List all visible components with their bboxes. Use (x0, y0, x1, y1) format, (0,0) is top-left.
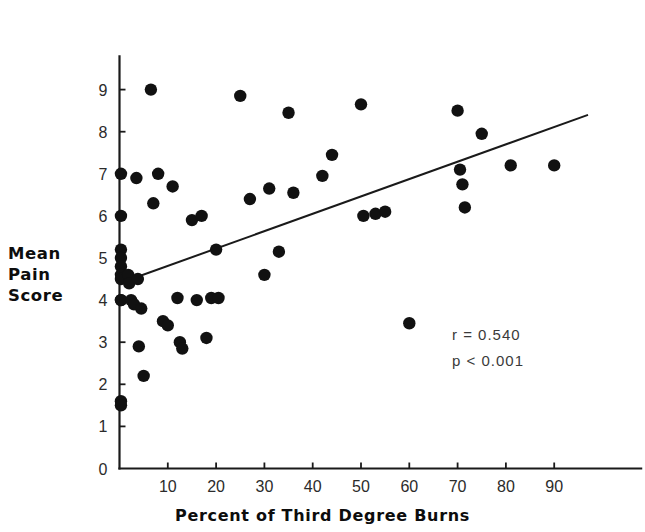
y-tick-label: 7 (99, 166, 108, 183)
y-axis-title-line-2: Pain (8, 264, 108, 285)
axis-group (120, 56, 642, 468)
data-point (212, 292, 224, 304)
x-tick-label: 80 (497, 478, 515, 495)
data-point (162, 319, 174, 331)
data-point (137, 370, 149, 382)
data-point (403, 317, 415, 329)
data-point (316, 170, 328, 182)
data-point (176, 342, 188, 354)
data-point (145, 83, 157, 95)
x-tick-label: 50 (352, 478, 370, 495)
data-point (476, 128, 488, 140)
correlation-annotation: r = 0.540 (452, 326, 521, 343)
data-point (459, 201, 471, 213)
tick-labels-group: 0123456789102030405060708090 (99, 82, 564, 495)
data-point (258, 269, 270, 281)
data-point (195, 210, 207, 222)
regression-line-group (120, 115, 589, 283)
data-point (115, 210, 127, 222)
x-tick-label: 60 (400, 478, 418, 495)
data-point (379, 205, 391, 217)
data-point (147, 197, 159, 209)
data-point (234, 90, 246, 102)
y-axis-title: Mean Pain Score (8, 243, 108, 306)
y-tick-label: 6 (99, 208, 108, 225)
data-point (505, 159, 517, 171)
x-tick-label: 30 (256, 478, 274, 495)
data-point (287, 187, 299, 199)
x-axis-title: Percent of Third Degree Burns (0, 506, 645, 525)
x-tick-label: 70 (449, 478, 467, 495)
data-point (133, 340, 145, 352)
y-tick-label: 1 (99, 418, 108, 435)
data-point (326, 149, 338, 161)
y-tick-label: 3 (99, 334, 108, 351)
y-axis-title-line-1: Mean (8, 243, 108, 264)
data-point (263, 182, 275, 194)
tick-marks-group (120, 90, 555, 469)
data-point (273, 245, 285, 257)
data-point (454, 163, 466, 175)
data-point (152, 168, 164, 180)
x-tick-label: 90 (545, 478, 563, 495)
data-point (115, 399, 127, 411)
data-point (166, 180, 178, 192)
data-point (191, 294, 203, 306)
x-tick-label: 10 (159, 478, 177, 495)
data-point (130, 172, 142, 184)
data-point (357, 210, 369, 222)
data-point (115, 168, 127, 180)
y-tick-label: 9 (99, 82, 108, 99)
data-point (451, 104, 463, 116)
data-point (135, 302, 147, 314)
data-point (244, 193, 256, 205)
x-tick-label: 20 (207, 478, 225, 495)
data-point (548, 159, 560, 171)
pvalue-annotation: p < 0.001 (452, 352, 524, 369)
data-point (282, 107, 294, 119)
data-point (456, 178, 468, 190)
scatter-plot-figure: 0123456789102030405060708090 Mean Pain S… (0, 0, 645, 532)
data-point (200, 332, 212, 344)
data-point (355, 98, 367, 110)
regression-line (120, 115, 589, 283)
y-tick-label: 2 (99, 376, 108, 393)
y-tick-label: 8 (99, 124, 108, 141)
data-point (171, 292, 183, 304)
data-point (132, 273, 144, 285)
data-point (210, 243, 222, 255)
x-tick-label: 40 (304, 478, 322, 495)
y-axis-title-line-3: Score (8, 285, 108, 306)
y-tick-label: 0 (99, 461, 108, 478)
